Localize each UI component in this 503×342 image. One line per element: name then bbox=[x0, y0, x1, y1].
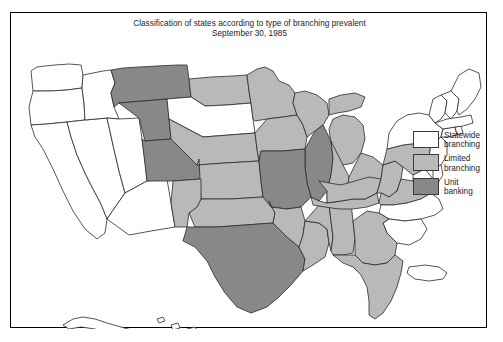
inset-hawaii bbox=[157, 317, 243, 329]
map-legend: Statewide branching Limited branching Un… bbox=[413, 131, 497, 201]
title-line-1: Classification of states according to ty… bbox=[133, 19, 366, 28]
legend-label-unit-line2: banking bbox=[444, 187, 473, 196]
legend-swatch-limited bbox=[413, 154, 439, 171]
state-OR bbox=[29, 88, 85, 125]
state-MN bbox=[247, 67, 297, 121]
legend-label-statewide-line2: branching bbox=[444, 140, 480, 149]
legend-label-limited-line2: branching bbox=[444, 164, 480, 173]
state-MO bbox=[259, 149, 311, 209]
state-WA bbox=[31, 64, 83, 91]
legend-label-limited-line1: Limited bbox=[444, 154, 480, 163]
state-KS bbox=[197, 159, 263, 199]
legend-item-statewide: Statewide branching bbox=[413, 131, 497, 150]
legend-label-statewide: Statewide branching bbox=[444, 131, 480, 150]
legend-swatch-statewide bbox=[413, 131, 439, 148]
state-FL bbox=[333, 255, 403, 319]
legend-label-unit-line1: Unit bbox=[444, 178, 473, 187]
figure-frame: Classification of states according to ty… bbox=[10, 12, 487, 328]
chart-title: Classification of states according to ty… bbox=[11, 19, 488, 39]
legend-label-statewide-line1: Statewide bbox=[444, 131, 480, 140]
legend-label-limited: Limited branching bbox=[444, 154, 480, 173]
state-VT bbox=[429, 95, 447, 123]
legend-swatch-unit bbox=[413, 178, 439, 195]
title-line-2: September 30, 1985 bbox=[11, 29, 488, 39]
legend-item-unit: Unit banking bbox=[413, 178, 497, 197]
state-OK bbox=[189, 197, 275, 227]
legend-item-limited: Limited branching bbox=[413, 154, 497, 173]
legend-label-unit: Unit banking bbox=[444, 178, 473, 197]
inset-puerto-rico bbox=[407, 265, 447, 281]
